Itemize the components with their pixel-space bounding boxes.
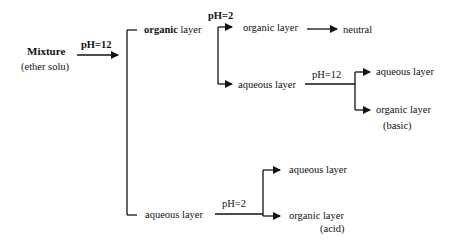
ph2-bottom-condition-label: pH=2 — [222, 199, 246, 210]
ph12-condition-label: pH=12 — [81, 40, 112, 51]
layer-label: layer — [178, 24, 202, 35]
bottom-aqueous-final-node: aqueous layer — [289, 165, 347, 176]
neutral-result-label: neutral — [343, 25, 372, 36]
organic-bold-label: organic — [144, 24, 178, 35]
ether-solution-label: (ether solu) — [21, 62, 69, 73]
aqueous-layer-final-node: aqueous layer — [376, 67, 434, 78]
basic-note-label: (basic) — [383, 121, 412, 132]
acid-note-label: (acid) — [320, 224, 344, 235]
aqueous-layer-node: aqueous layer — [238, 80, 296, 91]
organic-layer-node: organic layer — [144, 25, 201, 36]
bottom-aqueous-layer-node: aqueous layer — [145, 210, 203, 221]
ph2-condition-label: pH=2 — [208, 11, 233, 22]
organic-layer-neutral-node: organic layer — [243, 23, 298, 34]
organic-layer-acid-node: organic layer — [289, 211, 344, 222]
mixture-label: Mixture — [27, 46, 65, 57]
ph12-second-condition-label: pH=12 — [312, 70, 341, 81]
organic-layer-basic-node: organic layer — [376, 105, 431, 116]
